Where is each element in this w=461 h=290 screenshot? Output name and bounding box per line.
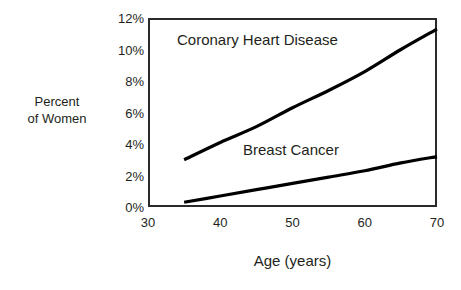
series-line <box>184 157 437 203</box>
y-axis-tick-labels: 0%2%4%6%8%10%12% <box>96 0 144 290</box>
y-axis-title: Percent of Women <box>14 93 100 127</box>
x-axis-tick-label: 30 <box>128 216 168 229</box>
x-axis-tick-label: 40 <box>200 216 240 229</box>
y-axis-tick-label: 6% <box>96 107 144 120</box>
series-label-coronary-heart-disease: Coronary Heart Disease <box>177 31 338 48</box>
y-axis-tick-label: 10% <box>96 44 144 57</box>
y-axis-tick-label: 2% <box>96 170 144 183</box>
y-axis-title-line-2: of Women <box>14 110 100 127</box>
x-axis-tick-label: 50 <box>273 216 313 229</box>
x-axis-tick-label: 60 <box>345 216 385 229</box>
y-axis-tick-label: 12% <box>96 12 144 25</box>
y-axis-tick-label: 4% <box>96 138 144 151</box>
y-axis-tick-label: 0% <box>96 201 144 214</box>
y-axis-tick-label: 8% <box>96 75 144 88</box>
series-label-breast-cancer: Breast Cancer <box>243 141 339 158</box>
y-axis-title-line-1: Percent <box>14 93 100 110</box>
x-axis-title: Age (years) <box>148 252 437 269</box>
x-axis-tick-label: 70 <box>417 216 457 229</box>
chart-figure: Coronary Heart Disease Breast Cancer 0%2… <box>0 0 461 290</box>
